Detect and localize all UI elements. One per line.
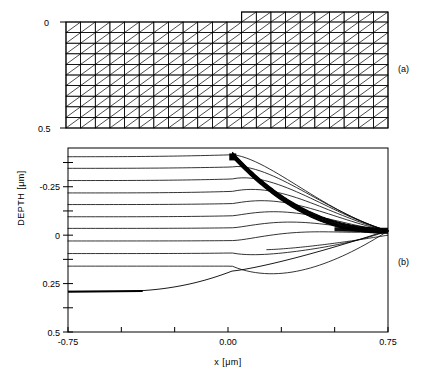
mesh-diagonal [227,86,242,97]
mesh-diagonal [139,107,154,118]
mesh-diagonal [66,43,81,54]
mesh-diagonal [81,96,96,107]
mesh-diagonal [227,96,242,107]
mesh-diagonal [286,43,301,54]
mesh-diagonal [81,75,96,86]
mesh-diagonal [125,33,140,44]
mesh-diagonal [139,75,154,86]
mesh-diagonal [373,86,388,97]
mesh-diagonal [359,75,374,86]
mesh-diagonal [300,43,315,54]
mesh-diagonal [286,86,301,97]
mesh-diagonal [183,22,198,33]
mesh-diagonal [95,22,110,33]
mesh-diagonal [300,107,315,118]
mesh-diagonal [256,96,271,107]
mesh-diagonal [168,107,183,118]
contour-bundle [232,154,388,230]
mesh-diagonal [95,107,110,118]
panel-b-ytick-label: 0.25 [42,279,60,289]
mesh-diagonal [81,64,96,75]
figure-canvas: 00.5(a)-0.750.000.75-0.2500.250.5x [μm]D… [0,0,433,375]
mesh-diagonal [183,107,198,118]
mesh-diagonal [154,54,169,65]
mesh-diagonal [227,54,242,65]
mesh-diagonal [329,54,344,65]
mesh-diagonal [168,64,183,75]
mesh-diagonal [271,33,286,44]
mesh-diagonal [286,75,301,86]
panel-a-label: (a) [398,64,409,74]
mesh-diagonal [139,22,154,33]
mesh-diagonal [373,22,388,33]
mesh-diagonal [256,33,271,44]
mesh-diagonal [198,64,213,75]
mesh-diagonal [359,33,374,44]
mesh-diagonal [198,43,213,54]
mesh-diagonal [256,22,271,33]
mesh-diagonal [300,86,315,97]
panel-b-label: (b) [398,257,409,267]
mesh-diagonal [198,22,213,33]
mesh-diagonal [344,64,359,75]
mesh-diagonal [359,12,374,22]
mesh-diagonal [227,22,242,33]
contour-line [68,231,388,241]
mesh-diagonal [227,33,242,44]
mesh-diagonal [66,22,81,33]
contour-bundle [232,155,388,231]
mesh-diagonal [81,33,96,44]
mesh-diagonal [227,117,242,128]
mesh-diagonal [315,64,330,75]
mesh-diagonal [125,43,140,54]
mesh-diagonal [66,64,81,75]
mesh-diagonal [154,22,169,33]
mesh-diagonal [183,43,198,54]
mesh-diagonal [344,33,359,44]
mesh-diagonal [183,96,198,107]
mesh-diagonal [81,107,96,118]
mesh-diagonal [329,75,344,86]
mesh-diagonal [315,33,330,44]
mesh-diagonal [183,75,198,86]
mesh-diagonal [359,96,374,107]
mesh-diagonal [168,43,183,54]
mesh-diagonal [344,22,359,33]
mesh-diagonal [183,54,198,65]
mesh-diagonal [359,86,374,97]
mesh-diagonal [359,64,374,75]
mesh-diagonal [344,107,359,118]
mesh-diagonal [95,54,110,65]
mesh-diagonal [256,86,271,97]
mesh-diagonal [315,43,330,54]
mesh-diagonal [110,107,125,118]
mesh-diagonal [271,75,286,86]
mesh-diagonal [212,54,227,65]
mesh-diagonal [95,96,110,107]
contour-line-deepest [68,230,388,291]
mesh-diagonal [359,54,374,65]
mesh-diagonal [125,107,140,118]
mesh-diagonal [212,107,227,118]
mesh-diagonal [183,64,198,75]
mesh-diagonal [315,86,330,97]
mesh-diagonal [212,33,227,44]
mesh-diagonal [256,12,271,22]
mesh-diagonal [329,117,344,128]
mesh-diagonal [329,33,344,44]
contour-bundle-tail [68,291,143,292]
mesh-diagonal [66,75,81,86]
mesh-diagonal [344,86,359,97]
mesh-diagonal [271,64,286,75]
mesh-diagonal [198,86,213,97]
mesh-diagonal [227,75,242,86]
mesh-diagonal [300,117,315,128]
mesh-diagonal [359,22,374,33]
mesh-diagonal [271,54,286,65]
mesh-diagonal [66,107,81,118]
mesh-diagonal [95,64,110,75]
mesh-diagonal [373,64,388,75]
mesh-diagonal [66,33,81,44]
mesh-diagonal [212,96,227,107]
mesh-diagonal [315,117,330,128]
